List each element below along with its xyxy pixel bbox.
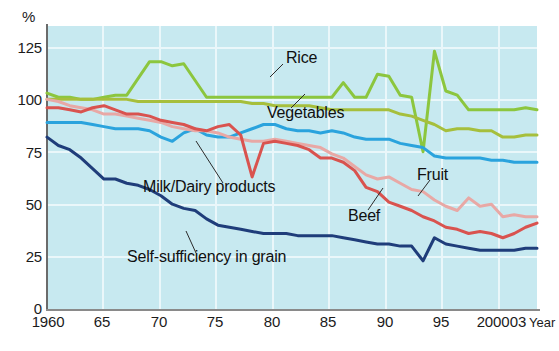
x-tick-label-70: 70 xyxy=(137,313,181,330)
annotation-leader-line xyxy=(196,141,223,183)
x-axis-title: Year xyxy=(529,315,555,330)
y-tick-label-25: 25 xyxy=(2,248,42,265)
annotation-leader-line xyxy=(270,64,283,77)
series-label-beef: Beef xyxy=(348,207,380,225)
x-tick-label-03: 03 xyxy=(505,313,531,330)
x-tick-label-95: 95 xyxy=(419,313,463,330)
x-tick-label-90: 90 xyxy=(363,313,407,330)
x-tick-label-1960: 1960 xyxy=(26,313,70,330)
x-tick-label-65: 65 xyxy=(80,313,124,330)
y-tick-label-50: 50 xyxy=(2,196,42,213)
series-lines-layer xyxy=(0,0,559,351)
series-label-rice: Rice xyxy=(286,49,317,67)
chart-figure: % 125 100 75 50 25 0 1960 65 70 75 80 85… xyxy=(0,0,559,351)
y-tick-label-100: 100 xyxy=(2,91,42,108)
series-label-self-sufficiency-in-grain: Self-sufficiency in grain xyxy=(127,248,286,266)
y-tick-label-125: 125 xyxy=(2,39,42,56)
series-label-milk-dairy-products: Milk/Dairy products xyxy=(143,178,275,196)
series-line-self-sufficiency-in-grain xyxy=(47,137,537,261)
series-label-vegetables: Vegetables xyxy=(267,104,344,122)
series-label-fruit: Fruit xyxy=(417,166,448,184)
y-tick-label-75: 75 xyxy=(2,144,42,161)
x-tick-label-85: 85 xyxy=(306,313,350,330)
x-tick-label-75: 75 xyxy=(193,313,237,330)
series-line-beef xyxy=(47,106,537,238)
x-tick-label-80: 80 xyxy=(250,313,294,330)
